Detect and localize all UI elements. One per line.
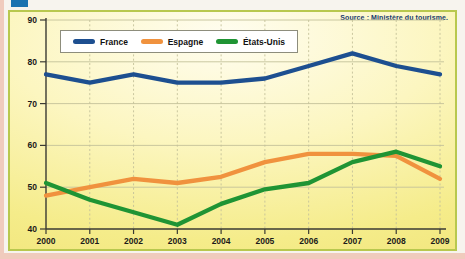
legend-swatch-0 xyxy=(73,39,95,44)
x-tick-label: 2009 xyxy=(431,236,450,246)
series-line-1 xyxy=(46,154,440,196)
legend-label-0: France xyxy=(100,37,128,47)
x-tick-label: 2005 xyxy=(255,236,274,246)
chart-legend: FranceEspagneÉtats-Unis xyxy=(60,30,298,53)
x-tick-label: 2001 xyxy=(80,236,99,246)
y-tick-label: 60 xyxy=(28,140,38,150)
x-tick-label: 2002 xyxy=(124,236,143,246)
x-tick-label: 2008 xyxy=(387,236,406,246)
legend-label-2: États-Unis xyxy=(243,37,285,47)
x-tick-label: 2006 xyxy=(299,236,318,246)
y-tick-label: 80 xyxy=(28,57,38,67)
page-edge-bottom xyxy=(0,253,465,259)
page: Source : Ministère du tourisme. FranceEs… xyxy=(0,0,465,259)
y-tick-label: 40 xyxy=(28,224,38,234)
legend-label-1: Espagne xyxy=(168,37,203,47)
legend-item-1: Espagne xyxy=(141,37,203,47)
legend-swatch-2 xyxy=(216,39,238,44)
x-tick-label: 2000 xyxy=(37,236,56,246)
x-tick-label: 2004 xyxy=(212,236,231,246)
legend-item-2: États-Unis xyxy=(216,37,285,47)
legend-swatch-1 xyxy=(141,39,163,44)
blue-tab-marker xyxy=(11,0,28,7)
y-tick-label: 70 xyxy=(28,99,38,109)
page-edge-left xyxy=(0,0,4,259)
chart-panel: Source : Ministère du tourisme. FranceEs… xyxy=(8,10,457,251)
series-line-0 xyxy=(46,53,440,82)
series-line-2 xyxy=(46,152,440,225)
y-tick-label: 90 xyxy=(28,15,38,25)
legend-item-0: France xyxy=(73,37,128,47)
x-tick-label: 2007 xyxy=(343,236,362,246)
y-tick-label: 50 xyxy=(28,182,38,192)
x-tick-label: 2003 xyxy=(168,236,187,246)
